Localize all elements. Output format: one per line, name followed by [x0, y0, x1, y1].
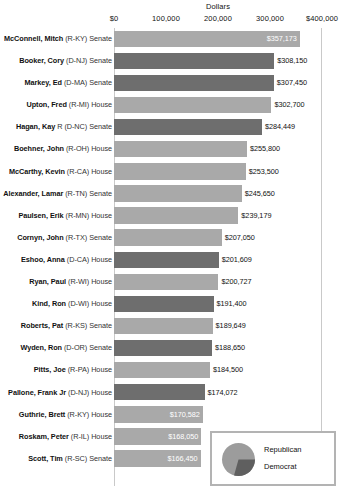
x-axis-tick-label: $0 — [110, 14, 119, 23]
bar[interactable] — [114, 252, 219, 268]
bar-value-label: $357,173 — [267, 28, 297, 50]
bar[interactable] — [114, 229, 222, 245]
bar-value-label: $184,500 — [213, 359, 243, 381]
bar-row-label: Markey, Ed (D-MA) Senate — [25, 72, 112, 94]
bar-track: $174,072 — [114, 382, 322, 404]
legislator-name: Cornyn, John — [17, 233, 65, 242]
legislator-party-chamber: (R-TX) Senate — [66, 233, 112, 242]
bar-row-label: Guthrie, Brett (R-KY) House — [19, 404, 112, 426]
legislator-party-chamber: (R-KY) Senate — [65, 34, 112, 43]
legislator-party-chamber: (R-KS) Senate — [65, 321, 112, 330]
legislator-name: Markey, Ed — [25, 78, 64, 87]
legend-entry-democrat: Democrat — [264, 462, 297, 471]
bar-track: $245,650 — [114, 183, 322, 205]
bar[interactable] — [114, 97, 271, 113]
bar-value-label: $174,072 — [208, 382, 238, 404]
bar-value-label: $207,050 — [225, 227, 255, 249]
bar[interactable] — [114, 384, 205, 400]
bar-value-label: $201,609 — [222, 249, 252, 271]
bar-row-label: Roskam, Peter (R-IL) House — [19, 426, 112, 448]
legend: Republican Democrat — [210, 431, 336, 486]
legislator-name: McCarthy, Kevin — [9, 167, 67, 176]
bar-row: Wyden, Ron (D-OR) Senate$188,650 — [0, 337, 348, 359]
legislator-party-chamber: (R-CA) House — [67, 167, 112, 176]
bar-track: $200,727 — [114, 271, 322, 293]
bar-row: Hagan, Kay R (D-NC) Senate$284,449 — [0, 116, 348, 138]
bar[interactable] — [114, 53, 274, 69]
bar-row-label: Wyden, Ron (D-OR) Senate — [20, 337, 112, 359]
legislator-party-chamber: (D-NJ) House — [68, 388, 112, 397]
legislator-party-chamber: (R-OH) House — [66, 144, 112, 153]
bar-row-label: Pitts, Joe (R-PA) House — [34, 359, 112, 381]
bar-row: Guthrie, Brett (R-KY) House$170,582 — [0, 404, 348, 426]
bar-value-label: $255,800 — [250, 138, 280, 160]
legislator-name: Alexander, Lamar — [3, 189, 65, 198]
bar-row-label: Kind, Ron (D-WI) House — [32, 293, 112, 315]
legislator-name: Upton, Fred — [26, 100, 68, 109]
legislator-name: Booker, Cory — [19, 56, 66, 65]
bar-row: Cornyn, John (R-TX) Senate$207,050 — [0, 227, 348, 249]
bar-row: Kind, Ron (D-WI) House$191,400 — [0, 293, 348, 315]
legislator-party-chamber: (R-KY) House — [67, 410, 112, 419]
bar-row: Markey, Ed (D-MA) Senate$307,450 — [0, 72, 348, 94]
bar[interactable] — [114, 318, 213, 334]
bar-row-label: Scott, Tim (R-SC) Senate — [28, 448, 112, 470]
bar-value-label: $253,500 — [249, 161, 279, 183]
bar-row-label: Roberts, Pat (R-KS) Senate — [21, 315, 112, 337]
legislator-name: Pitts, Joe — [34, 365, 68, 374]
legislator-name: McConnell, Mitch — [4, 34, 65, 43]
bar-row: Pallone, Frank Jr (D-NJ) House$174,072 — [0, 382, 348, 404]
legislator-name: Kind, Ron — [32, 299, 68, 308]
bar[interactable] — [114, 340, 212, 356]
bar-row-label: McCarthy, Kevin (R-CA) House — [9, 161, 112, 183]
legislator-party-chamber: (R-SC) Senate — [65, 454, 112, 463]
legislator-party-chamber: (D-NJ) Senate — [66, 56, 112, 65]
bar[interactable] — [114, 207, 238, 223]
bar[interactable] — [114, 185, 242, 201]
legislator-name: Pallone, Frank Jr — [8, 388, 68, 397]
bar-track: $284,449 — [114, 116, 322, 138]
legislator-name: Boehner, John — [14, 144, 66, 153]
bar[interactable] — [114, 296, 214, 312]
bar[interactable] — [114, 119, 262, 135]
x-axis-tick-label: $400,000 — [306, 14, 338, 23]
x-axis-tick-label: 300,000 — [256, 14, 284, 23]
legislator-party-chamber: (R-IL) House — [71, 432, 112, 441]
bar[interactable] — [114, 141, 247, 157]
bar-track: $308,150 — [114, 50, 322, 72]
legislator-party-chamber: (R-WI) House — [68, 277, 112, 286]
legislator-party-chamber: (D-WI) House — [68, 299, 112, 308]
bar-track: $201,609 — [114, 249, 322, 271]
bar-track: $207,050 — [114, 227, 322, 249]
legislator-party-chamber: (R-MN) House — [66, 211, 112, 220]
legislator-party-chamber: (R-TN) Senate — [65, 189, 112, 198]
bar-row-label: Hagan, Kay R (D-NC) Senate — [16, 116, 112, 138]
legislator-name: Eshoo, Anna — [21, 255, 67, 264]
legislator-party-chamber: (R-PA) House — [68, 365, 112, 374]
bar-track: $255,800 — [114, 138, 322, 160]
bar-value-label: $168,050 — [168, 426, 198, 448]
x-axis-title: Dollars — [114, 2, 322, 11]
bar-row: Eshoo, Anna (D-CA) House$201,609 — [0, 249, 348, 271]
bar-row-label: Cornyn, John (R-TX) Senate — [17, 227, 112, 249]
bar-value-label: $200,727 — [221, 271, 251, 293]
bar[interactable] — [114, 75, 274, 91]
legislator-name: Wyden, Ron — [20, 343, 64, 352]
bar[interactable] — [114, 362, 210, 378]
bar-track: $191,400 — [114, 293, 322, 315]
bar-row-label: Paulsen, Erik (R-MN) House — [18, 205, 112, 227]
bar-value-label: $302,700 — [274, 94, 304, 116]
bar-value-label: $239,179 — [241, 205, 271, 227]
legislator-name: Ryan, Paul — [29, 277, 68, 286]
legislator-name: Roskam, Peter — [19, 432, 71, 441]
legislator-party-chamber: (R-MI) House — [69, 100, 112, 109]
bar-row-label: Booker, Cory (D-NJ) Senate — [19, 50, 112, 72]
bar[interactable] — [114, 274, 218, 290]
bar[interactable] — [114, 163, 246, 179]
bar-track: $170,582 — [114, 404, 322, 426]
bar-row: McConnell, Mitch (R-KY) Senate$357,173 — [0, 28, 348, 50]
bar-row-label: Upton, Fred (R-MI) House — [26, 94, 112, 116]
bar-row-label: Eshoo, Anna (D-CA) House — [21, 249, 112, 271]
bar-row: Booker, Cory (D-NJ) Senate$308,150 — [0, 50, 348, 72]
bar-track: $188,650 — [114, 337, 322, 359]
